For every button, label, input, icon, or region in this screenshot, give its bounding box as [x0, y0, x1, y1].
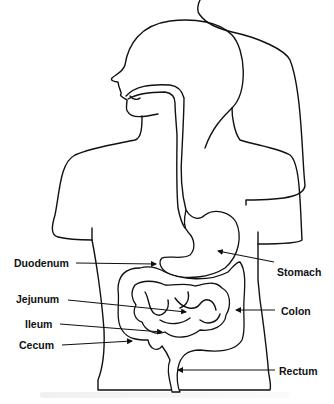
- small-intestine: [132, 281, 229, 337]
- faded-caption: [40, 392, 290, 398]
- label-duodenum: Duodenum: [14, 257, 69, 269]
- label-cecum: Cecum: [19, 339, 54, 351]
- label-colon: Colon: [281, 305, 311, 317]
- label-ileum: Ileum: [25, 318, 52, 330]
- stomach: [160, 210, 239, 277]
- label-rectum: Rectum: [279, 365, 318, 377]
- label-jejunum: Jejunum: [16, 293, 59, 305]
- esophagus: [126, 85, 195, 228]
- label-stomach: Stomach: [277, 266, 321, 278]
